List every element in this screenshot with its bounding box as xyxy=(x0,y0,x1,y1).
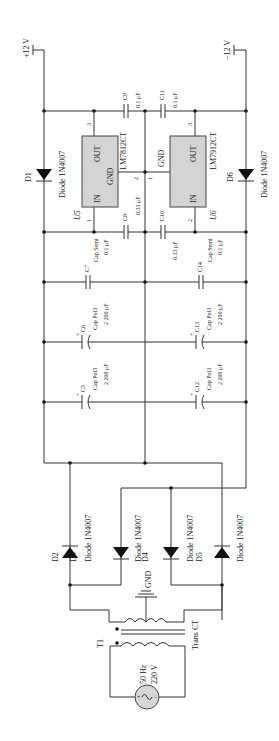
svg-text:0.1 μF: 0.1 μF xyxy=(217,239,223,255)
ground-symbol: GND xyxy=(135,570,157,622)
svg-text:3: 3 xyxy=(187,123,193,126)
svg-text:0.1 μF: 0.1 μF xyxy=(103,239,109,255)
svg-text:C13: C13 xyxy=(194,322,200,332)
svg-text:Cap Pol3: Cap Pol3 xyxy=(92,308,98,330)
svg-text:C10: C10 xyxy=(159,211,165,221)
svg-text:2: 2 xyxy=(187,219,193,222)
u5-ref: U5 xyxy=(73,210,82,220)
svg-text:C12: C12 xyxy=(194,382,200,392)
c9-ref: C9 xyxy=(122,93,128,100)
svg-text:2: 2 xyxy=(133,177,139,180)
svg-text:1: 1 xyxy=(147,177,153,180)
diode-d4: D4 Diode 1N4007 xyxy=(141,515,195,562)
c11-value: 0.1 μF xyxy=(172,92,178,108)
u5-part: LM7812CT xyxy=(119,132,128,170)
svg-text:GND: GND xyxy=(106,167,115,185)
svg-text:D2: D2 xyxy=(51,552,60,562)
d1-part: Diode 1N4007 xyxy=(58,151,67,198)
svg-text:D3: D3 xyxy=(69,552,78,562)
ground-label: GND xyxy=(144,570,153,588)
negative-rail-terminal: −12 V xyxy=(223,40,246,111)
c11-ref: C11 xyxy=(159,90,165,100)
svg-text:D4: D4 xyxy=(141,552,150,562)
svg-text:Cap Pol3: Cap Pol3 xyxy=(206,308,212,330)
svg-text:IN: IN xyxy=(189,194,198,203)
svg-text:0.33 μF: 0.33 μF xyxy=(135,196,141,215)
svg-text:Diode 1N4007: Diode 1N4007 xyxy=(236,515,245,562)
ac-source: + − 50 Hz 220 V xyxy=(135,664,159,709)
d6-ref: D6 xyxy=(226,172,235,182)
positive-rail-terminal: +12 V xyxy=(22,38,44,111)
diode-d1: D1 Diode 1N4007 xyxy=(24,151,67,198)
svg-text:1: 1 xyxy=(86,219,92,222)
svg-text:Cap Pol3: Cap Pol3 xyxy=(206,368,212,390)
diode-d6: D6 Diode 1N4007 xyxy=(226,151,269,198)
svg-text:OUT: OUT xyxy=(93,145,102,162)
source-frequency: 50 Hz xyxy=(139,664,148,684)
source-voltage: 220 V xyxy=(150,664,159,684)
svg-text:2 200 μF: 2 200 μF xyxy=(103,303,109,325)
svg-text:0.33 μF: 0.33 μF xyxy=(172,241,178,260)
svg-text:Cap Semi: Cap Semi xyxy=(207,238,213,262)
svg-text:D5: D5 xyxy=(195,552,204,562)
negative-rail-label: −12 V xyxy=(223,40,232,60)
svg-text:3: 3 xyxy=(86,123,92,126)
svg-text:C6: C6 xyxy=(80,325,86,332)
svg-text:Cap Pol3: Cap Pol3 xyxy=(92,368,98,390)
svg-text:2 200 μF: 2 200 μF xyxy=(217,363,223,385)
svg-text:GND: GND xyxy=(157,149,166,167)
u6-ref: U6 xyxy=(209,210,218,220)
svg-text:IN: IN xyxy=(93,194,102,203)
svg-text:Diode 1N4007: Diode 1N4007 xyxy=(186,515,195,562)
diode-d5: D5 Diode 1N4007 xyxy=(195,515,245,562)
svg-text:C14: C14 xyxy=(197,262,203,272)
d1-ref: D1 xyxy=(24,172,33,182)
c9-value: 0.1 μF xyxy=(135,92,141,108)
svg-text:2 200 μF: 2 200 μF xyxy=(217,303,223,325)
u6-part: LM7912CT xyxy=(209,132,218,170)
svg-text:C7: C7 xyxy=(84,265,90,272)
positive-rail-label: +12 V xyxy=(22,38,31,58)
svg-text:C8: C8 xyxy=(122,214,128,221)
diode-d3: D3 Diode 1N4007 xyxy=(69,515,143,562)
svg-text:C5: C5 xyxy=(80,385,86,392)
regulator-u6: GND OUT IN LM7912CT U6 3 2 1 xyxy=(145,111,218,232)
circuit-schematic: +12 V −12 V C9 0.1 μF C11 0.1 μF D1 Diod… xyxy=(0,0,279,741)
transformer-part: Trans CT xyxy=(191,620,200,650)
svg-text:Diode 1N4007: Diode 1N4007 xyxy=(84,515,93,562)
bridge-wiring xyxy=(44,461,246,622)
svg-text:Cap Semi: Cap Semi xyxy=(93,238,99,262)
svg-text:OUT: OUT xyxy=(189,145,198,162)
svg-text:2 200 μF: 2 200 μF xyxy=(103,363,109,385)
transformer-ref: T1 xyxy=(96,639,105,648)
d6-part: Diode 1N4007 xyxy=(260,151,269,198)
